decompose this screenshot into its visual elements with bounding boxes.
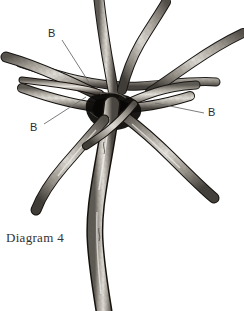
branch-nest-illustration <box>0 0 244 311</box>
label-b-left: B <box>30 122 38 133</box>
diagram-page: B B B Diagram 4 <box>0 0 244 311</box>
label-b-right: B <box>208 107 216 118</box>
canvas-background <box>0 0 244 311</box>
label-b-top: B <box>48 28 56 39</box>
figure-caption: Diagram 4 <box>6 230 64 246</box>
